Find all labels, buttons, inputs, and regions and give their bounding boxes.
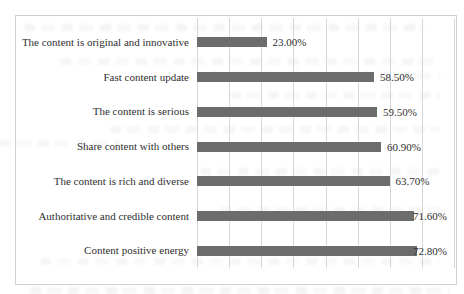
bar-track: 72.80%: [197, 233, 454, 268]
value-label: 23.00%: [273, 36, 307, 48]
value-label: 60.90%: [387, 141, 421, 153]
bar: [197, 142, 381, 152]
bar-track: 60.90%: [197, 129, 454, 164]
chart-rows: The content is original and innovative23…: [16, 25, 454, 268]
bar: [197, 211, 414, 221]
scanned-figure-page: The content is original and innovative23…: [0, 0, 464, 294]
category-label: Content positive energy: [16, 244, 197, 257]
value-label: 72.80%: [413, 245, 447, 257]
category-label: Share content with others: [16, 140, 197, 153]
category-label: The content is original and innovative: [16, 36, 197, 49]
category-label: Authoritative and credible content: [16, 210, 197, 223]
value-label: 59.50%: [383, 106, 417, 118]
chart-row: Fast content update58.50%: [16, 60, 454, 95]
chart-plot-frame: The content is original and innovative23…: [15, 15, 457, 285]
category-label: The content is rich and diverse: [16, 175, 197, 188]
category-label: Fast content update: [16, 71, 197, 84]
chart-row: Authoritative and credible content71.60%: [16, 199, 454, 234]
bar-track: 59.50%: [197, 94, 454, 129]
bar: [197, 37, 267, 47]
bar-track: 71.60%: [197, 199, 454, 234]
value-label: 58.50%: [380, 71, 414, 83]
chart-row: Share content with others60.90%: [16, 129, 454, 164]
bar: [197, 246, 417, 256]
chart-row: The content is rich and diverse63.70%: [16, 164, 454, 199]
gridline: [454, 18, 455, 268]
bar: [197, 72, 374, 82]
bar-track: 23.00%: [197, 25, 454, 60]
value-label: 71.60%: [413, 210, 447, 222]
chart-row: Content positive energy72.80%: [16, 233, 454, 268]
category-label: The content is serious: [16, 105, 197, 118]
chart-row: The content is serious59.50%: [16, 94, 454, 129]
chart-row: The content is original and innovative23…: [16, 25, 454, 60]
bar: [197, 107, 377, 117]
bar-track: 58.50%: [197, 60, 454, 95]
bar-track: 63.70%: [197, 164, 454, 199]
scan-bleed-artifact: [30, 287, 450, 294]
value-label: 63.70%: [396, 175, 430, 187]
bar: [197, 176, 390, 186]
